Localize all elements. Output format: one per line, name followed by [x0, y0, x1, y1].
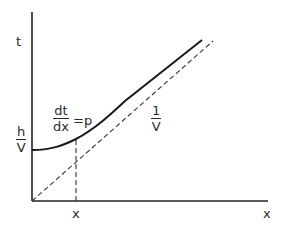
slope-curve-numerator: dt [53, 104, 68, 119]
x-axis-label: x [263, 207, 271, 220]
slope-curve-fraction: dt dx [53, 104, 69, 133]
intercept-numerator: h [16, 125, 26, 140]
intercept-label: h V [16, 125, 26, 154]
slope-asymptote-denominator: V [152, 119, 161, 133]
slope-curve-denominator: dx [53, 119, 69, 133]
x-tick-label: x [72, 207, 80, 220]
slope-curve-equals-p: =p [73, 114, 92, 127]
slope-asymptote-label: 1 V [151, 104, 161, 133]
diagram-canvas [0, 0, 285, 227]
slope-asymptote-numerator: 1 [151, 104, 161, 119]
intercept-denominator: V [17, 140, 26, 154]
t-axis-label: t [16, 35, 21, 48]
